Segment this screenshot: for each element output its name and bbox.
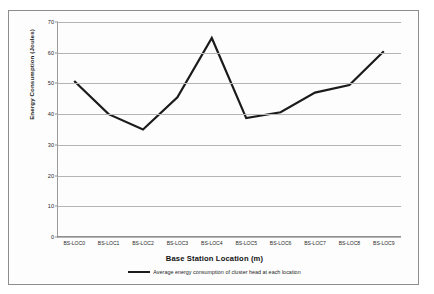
x-axis-tick-labels: BS-LOC0BS-LOC1BS-LOC2BS-LOC3BS-LOC4BS-LO…: [57, 240, 401, 252]
y-axis-tick-label: 30: [48, 142, 54, 148]
gridline-y-50: [57, 83, 401, 84]
x-axis-tick-label: BS-LOC2: [132, 240, 153, 246]
y-tick-mark-30: [55, 144, 58, 145]
x-axis-tick-label: BS-LOC1: [98, 240, 119, 246]
series-line-average-energy-consumption: [57, 22, 401, 237]
x-axis-tick-label: BS-LOC4: [201, 240, 222, 246]
x-axis-tick-label: BS-LOC8: [339, 240, 360, 246]
y-tick-mark-20: [55, 175, 58, 176]
y-tick-mark-50: [55, 83, 58, 84]
chart-legend: Average energy consumption of cluster he…: [9, 269, 420, 275]
x-axis-title: Base Station Location (m): [9, 254, 420, 263]
x-axis-tick-label: BS-LOC6: [270, 240, 291, 246]
y-axis-tick-label: 60: [48, 50, 54, 56]
legend-line-swatch: [128, 271, 150, 273]
y-tick-mark-60: [55, 52, 58, 53]
y-tick-mark-40: [55, 114, 58, 115]
y-axis-tick-label: 0: [51, 234, 54, 240]
y-axis-tick-label: 50: [48, 80, 54, 86]
gridline-y-0: [57, 237, 401, 238]
y-axis-title: Energy Consumption (Joules): [28, 0, 35, 155]
gridline-y-30: [57, 145, 401, 146]
legend-label: Average energy consumption of cluster he…: [153, 269, 300, 275]
y-axis-tick-label: 10: [48, 203, 54, 209]
y-axis-tick-label: 20: [48, 173, 54, 179]
y-axis-tick-label: 70: [48, 19, 54, 25]
gridline-y-40: [57, 114, 401, 115]
y-tick-mark-70: [55, 22, 58, 23]
plot-area: 010203040506070: [57, 22, 401, 237]
y-tick-mark-10: [55, 206, 58, 207]
gridline-y-60: [57, 53, 401, 54]
y-tick-mark-0: [55, 237, 58, 238]
x-axis-tick-label: BS-LOC7: [304, 240, 325, 246]
chart-figure: Energy Consumption (Joules) 010203040506…: [8, 10, 419, 285]
gridline-y-70: [57, 22, 401, 23]
x-axis-tick-label: BS-LOC9: [373, 240, 394, 246]
gridline-y-20: [57, 176, 401, 177]
x-axis-tick-label: BS-LOC5: [235, 240, 256, 246]
y-axis-tick-label: 40: [48, 111, 54, 117]
x-axis-tick-label: BS-LOC3: [167, 240, 188, 246]
x-axis-tick-label: BS-LOC0: [63, 240, 84, 246]
gridline-y-10: [57, 206, 401, 207]
